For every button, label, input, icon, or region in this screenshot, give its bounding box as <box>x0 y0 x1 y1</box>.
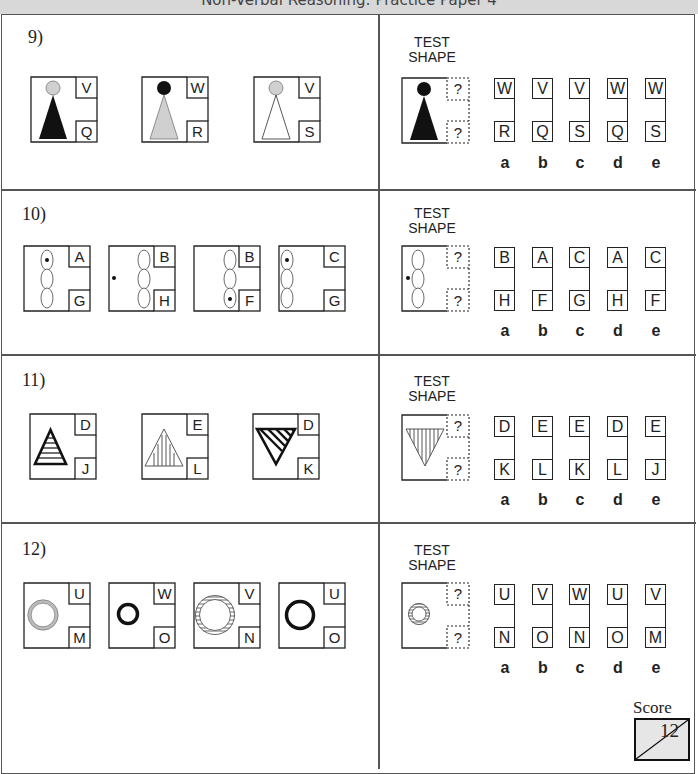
svg-text:U: U <box>74 585 85 602</box>
q12-example-3: V N <box>193 582 263 650</box>
svg-text:G: G <box>74 292 86 309</box>
svg-text:V: V <box>304 79 314 96</box>
svg-text:?: ? <box>454 461 462 478</box>
svg-text:L: L <box>193 460 201 477</box>
q10-option-e[interactable]: CF <box>645 247 669 319</box>
q9-test-shape: ? ? <box>401 77 473 145</box>
q12-option-a[interactable]: UN <box>494 584 518 656</box>
q12-example-1: U M <box>23 582 93 650</box>
q9-option-e[interactable]: WS <box>645 78 669 150</box>
q12-option-label-d: d <box>606 659 630 677</box>
svg-text:F: F <box>245 292 254 309</box>
q10-option-b[interactable]: AF <box>532 247 556 319</box>
q9-example-2: W R <box>141 76 211 144</box>
q12-option-label-c: c <box>568 659 592 677</box>
svg-text:B: B <box>244 248 254 265</box>
score-label: Score <box>633 698 693 718</box>
q11-test-shape: ? ? <box>401 414 473 482</box>
q9-option-a[interactable]: WR <box>494 78 518 150</box>
q11-option-label-a: a <box>493 491 517 509</box>
q10-option-c[interactable]: CG <box>569 247 593 319</box>
q12-option-c[interactable]: WN <box>569 584 593 656</box>
svg-text:?: ? <box>454 292 462 309</box>
q11-example-1: D J <box>29 413 99 481</box>
row-divider <box>1 354 696 356</box>
svg-text:?: ? <box>454 629 462 646</box>
q11-example-3: D K <box>252 413 322 481</box>
question-number-10: 10) <box>22 204 46 225</box>
svg-text:E: E <box>192 416 202 433</box>
svg-text:W: W <box>157 585 172 602</box>
svg-text:C: C <box>329 248 340 265</box>
q9-example-3: V S <box>253 76 323 144</box>
row-divider <box>1 189 696 191</box>
q9-option-b[interactable]: VQ <box>532 78 556 150</box>
question-number-11: 11) <box>22 370 45 391</box>
q9-option-c[interactable]: VS <box>569 78 593 150</box>
q9-example-1: V Q <box>30 76 100 144</box>
svg-text:U: U <box>329 585 340 602</box>
q11-option-e[interactable]: EJ <box>645 416 669 488</box>
svg-text:O: O <box>159 629 171 646</box>
q11-option-c[interactable]: EK <box>569 416 593 488</box>
q10-option-a[interactable]: BH <box>494 247 518 319</box>
q12-option-label-a: a <box>493 659 517 677</box>
q9-option-d[interactable]: WQ <box>607 78 631 150</box>
score-total: 12 <box>660 720 679 742</box>
svg-text:Q: Q <box>81 123 93 140</box>
q12-option-e[interactable]: VM <box>645 584 669 656</box>
q11-option-b[interactable]: EL <box>532 416 556 488</box>
svg-text:?: ? <box>454 585 462 602</box>
svg-text:?: ? <box>454 124 462 141</box>
q12-example-4: U O <box>278 582 348 650</box>
column-divider <box>378 14 380 769</box>
q12-option-d[interactable]: UO <box>607 584 631 656</box>
svg-text:?: ? <box>454 248 462 265</box>
svg-text:O: O <box>329 629 341 646</box>
test-shape-label: TESTSHAPE <box>400 543 464 573</box>
q12-option-b[interactable]: VO <box>532 584 556 656</box>
q11-option-a[interactable]: DK <box>494 416 518 488</box>
q9-option-label-a: a <box>493 154 517 172</box>
q11-option-d[interactable]: DL <box>607 416 631 488</box>
q9-option-label-e: e <box>644 154 668 172</box>
q11-option-label-c: c <box>568 491 592 509</box>
q10-test-shape: ? ? <box>401 245 473 313</box>
svg-text:W: W <box>190 79 205 96</box>
question-number-9: 9) <box>28 27 43 48</box>
svg-text:B: B <box>159 248 169 265</box>
test-shape-label: TESTSHAPE <box>400 374 464 404</box>
q9-option-label-b: b <box>531 154 555 172</box>
row-divider <box>1 522 696 524</box>
svg-text:R: R <box>192 123 203 140</box>
svg-text:K: K <box>303 460 313 477</box>
q11-option-label-d: d <box>606 491 630 509</box>
page-title: Non-Verbal Reasoning: Practice Paper 4 <box>0 0 698 9</box>
q11-option-label-b: b <box>531 491 555 509</box>
q12-option-label-b: b <box>531 659 555 677</box>
svg-text:D: D <box>80 416 91 433</box>
svg-text:?: ? <box>454 80 462 97</box>
q12-test-shape: ? ? <box>401 582 473 650</box>
test-shape-label: TESTSHAPE <box>400 35 464 65</box>
q12-example-2: W O <box>108 582 178 650</box>
svg-text:D: D <box>303 416 314 433</box>
q10-example-3: B F <box>193 245 263 313</box>
test-shape-label: TESTSHAPE <box>400 206 464 236</box>
svg-text:A: A <box>74 248 84 265</box>
svg-text:N: N <box>244 629 255 646</box>
q11-option-label-e: e <box>644 491 668 509</box>
svg-text:V: V <box>244 585 254 602</box>
q10-option-label-c: c <box>568 322 592 340</box>
svg-text:J: J <box>82 460 90 477</box>
q11-example-2: E L <box>141 413 211 481</box>
q10-option-label-a: a <box>493 322 517 340</box>
svg-text:S: S <box>304 123 314 140</box>
svg-text:G: G <box>329 292 341 309</box>
q10-example-4: C G <box>278 245 348 313</box>
q10-option-d[interactable]: AH <box>607 247 631 319</box>
q9-option-label-c: c <box>568 154 592 172</box>
q10-example-1: A G <box>23 245 93 313</box>
q12-option-label-e: e <box>644 659 668 677</box>
q10-option-label-d: d <box>606 322 630 340</box>
